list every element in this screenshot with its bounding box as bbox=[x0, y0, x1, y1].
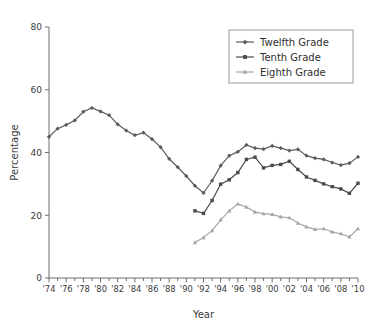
y-tick-label: 40 bbox=[31, 148, 43, 158]
y-axis-title: Percentage bbox=[9, 124, 20, 180]
x-tick-label: '88 bbox=[163, 284, 176, 294]
data-point-marker bbox=[305, 175, 308, 178]
data-point-marker bbox=[331, 185, 334, 188]
data-point-marker bbox=[348, 192, 351, 195]
data-point-marker bbox=[356, 182, 359, 185]
y-tick-label: 60 bbox=[31, 85, 43, 95]
series-group bbox=[47, 106, 360, 244]
data-point-marker bbox=[90, 106, 94, 110]
data-point-marker bbox=[322, 157, 326, 161]
x-tick-label: '94 bbox=[214, 284, 227, 294]
x-axis-ticks: '74'76'78'80'82'84'86'88'90'92'94'96'98'… bbox=[43, 278, 365, 294]
series-line bbox=[195, 204, 358, 243]
chart-legend: Twelfth GradeTenth GradeEighth Grade bbox=[229, 30, 353, 83]
x-tick-label: '02 bbox=[283, 284, 296, 294]
chart-canvas: 020406080 '74'76'78'80'82'84'86'88'90'92… bbox=[0, 0, 369, 330]
x-tick-label: '04 bbox=[300, 284, 313, 294]
line-chart: 020406080 '74'76'78'80'82'84'86'88'90'92… bbox=[0, 0, 369, 330]
data-point-marker bbox=[64, 123, 68, 127]
y-tick-label: 80 bbox=[31, 22, 43, 32]
legend-label: Tenth Grade bbox=[259, 52, 321, 63]
data-series bbox=[193, 202, 360, 244]
data-point-marker bbox=[287, 148, 291, 152]
legend-label: Eighth Grade bbox=[260, 67, 326, 78]
data-point-marker bbox=[193, 209, 196, 212]
data-point-marker bbox=[339, 187, 342, 190]
data-point-marker bbox=[279, 163, 282, 166]
x-tick-label: '74 bbox=[43, 284, 56, 294]
data-point-marker bbox=[330, 160, 334, 164]
data-point-marker bbox=[270, 144, 274, 148]
legend-label: Twelfth Grade bbox=[259, 37, 329, 48]
x-tick-label: '00 bbox=[266, 284, 279, 294]
data-point-marker bbox=[288, 160, 291, 163]
data-point-marker bbox=[261, 147, 265, 151]
x-tick-label: '84 bbox=[128, 284, 141, 294]
data-point-marker bbox=[313, 156, 317, 160]
data-point-marker bbox=[296, 168, 299, 171]
series-line bbox=[49, 108, 358, 193]
x-tick-label: '78 bbox=[77, 284, 90, 294]
y-axis-ticks: 020406080 bbox=[31, 22, 49, 283]
x-tick-label: '76 bbox=[60, 284, 73, 294]
x-tick-label: '86 bbox=[146, 284, 159, 294]
data-point-marker bbox=[322, 182, 325, 185]
x-tick-label: '96 bbox=[231, 284, 244, 294]
data-point-marker bbox=[356, 226, 360, 230]
data-point-marker bbox=[98, 109, 102, 113]
y-tick-label: 20 bbox=[31, 211, 43, 221]
data-point-marker bbox=[339, 163, 343, 167]
data-point-marker bbox=[313, 179, 316, 182]
data-point-marker bbox=[236, 171, 239, 174]
data-point-marker bbox=[228, 178, 231, 181]
x-tick-label: '98 bbox=[249, 284, 262, 294]
data-point-marker bbox=[253, 156, 256, 159]
data-series bbox=[47, 106, 360, 195]
data-point-marker bbox=[270, 164, 273, 167]
x-tick-label: '08 bbox=[334, 284, 347, 294]
x-tick-label: '82 bbox=[111, 284, 124, 294]
data-point-marker bbox=[279, 146, 283, 150]
x-tick-label: '10 bbox=[352, 284, 365, 294]
x-tick-label: '06 bbox=[317, 284, 330, 294]
x-tick-label: '92 bbox=[197, 284, 210, 294]
data-point-marker bbox=[236, 202, 240, 206]
data-point-marker bbox=[219, 182, 222, 185]
x-tick-label: '80 bbox=[94, 284, 107, 294]
data-point-marker bbox=[262, 166, 265, 169]
x-tick-label: '90 bbox=[180, 284, 193, 294]
data-point-marker bbox=[202, 212, 205, 215]
legend-marker-icon bbox=[243, 55, 247, 59]
y-tick-label: 0 bbox=[36, 273, 42, 283]
data-series bbox=[193, 156, 359, 216]
data-point-marker bbox=[245, 158, 248, 161]
data-point-marker bbox=[210, 199, 213, 202]
data-point-marker bbox=[253, 146, 257, 150]
x-axis-title: Year bbox=[192, 309, 215, 320]
